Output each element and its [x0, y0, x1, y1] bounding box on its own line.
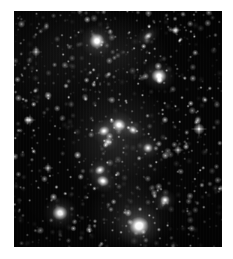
sky-field-frame [14, 11, 222, 247]
figure-root [0, 0, 233, 259]
star-field-canvas [14, 11, 222, 247]
